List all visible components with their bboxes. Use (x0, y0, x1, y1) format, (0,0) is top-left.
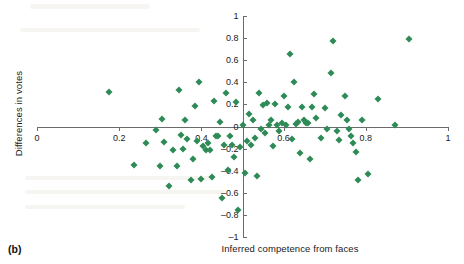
data-point (255, 90, 262, 97)
data-point (311, 90, 318, 97)
data-point (317, 134, 324, 141)
x-axis-tick-label: 1 (445, 133, 450, 143)
data-point (264, 99, 271, 106)
data-point (188, 176, 195, 183)
data-point (391, 122, 398, 129)
data-point (321, 105, 328, 112)
data-point (333, 127, 340, 134)
data-point (233, 98, 240, 105)
data-point (348, 133, 355, 140)
data-point (323, 126, 330, 133)
data-point (296, 149, 303, 156)
y-axis-tick (243, 60, 247, 61)
x-axis-tick (366, 127, 367, 131)
data-point (375, 95, 382, 102)
data-point (142, 140, 149, 147)
data-point (157, 162, 164, 169)
y-axis-tick-label: 1 (207, 11, 239, 21)
data-point (280, 93, 287, 100)
data-point (192, 102, 199, 109)
data-point (336, 136, 343, 143)
y-axis-tick-label: –0.8 (207, 210, 239, 220)
data-point (235, 206, 242, 213)
data-point (272, 101, 279, 108)
data-point (227, 133, 234, 140)
data-point (307, 155, 314, 162)
data-point (342, 92, 349, 99)
data-point (173, 162, 180, 169)
x-axis-tick (448, 127, 449, 131)
data-point (161, 138, 168, 145)
y-axis-tick (243, 237, 247, 238)
data-point (358, 116, 365, 123)
y-axis-tick-label: 0.4 (207, 77, 239, 87)
data-point (231, 153, 238, 160)
data-point (190, 155, 197, 162)
data-point (313, 114, 320, 121)
x-axis-tick-label: 0.8 (360, 133, 373, 143)
data-point (262, 130, 269, 137)
x-axis-tick (37, 127, 38, 131)
data-point (329, 37, 336, 44)
data-point (181, 117, 188, 124)
data-point (159, 115, 166, 122)
data-point (309, 103, 316, 110)
data-point (223, 90, 230, 97)
data-point (249, 116, 256, 123)
x-axis-tick-label: 0 (34, 133, 39, 143)
data-point (350, 140, 357, 147)
data-point (253, 173, 260, 180)
y-axis-tick (243, 38, 247, 39)
data-point (364, 170, 371, 177)
data-point (344, 117, 351, 124)
y-axis-tick (243, 215, 247, 216)
data-point (183, 135, 190, 142)
data-point (196, 79, 203, 86)
panel-caption: (b) (8, 243, 21, 255)
data-point (175, 86, 182, 93)
data-point (130, 161, 137, 168)
y-axis-tick-label: 0.6 (207, 55, 239, 65)
data-point (354, 176, 361, 183)
x-axis-tick (201, 127, 202, 131)
data-point (179, 146, 186, 153)
data-point (290, 79, 297, 86)
data-point (198, 175, 205, 182)
data-point (286, 50, 293, 57)
data-point (251, 135, 258, 142)
data-point (247, 141, 254, 148)
y-axis-tick (243, 193, 247, 194)
x-axis-tick-label: 0.2 (113, 133, 126, 143)
data-point (327, 69, 334, 76)
data-point (266, 122, 273, 129)
data-point (165, 183, 172, 190)
figure-panel-b: 00.20.40.60.81–1–0.8–0.6–0.4–0.200.20.40… (0, 0, 464, 264)
y-axis-tick-label: –1 (207, 232, 239, 242)
data-point (270, 142, 277, 149)
data-point (105, 88, 112, 95)
data-point (405, 36, 412, 43)
y-axis-tick (243, 16, 247, 17)
scatter-plot-area: 00.20.40.60.81–1–0.8–0.6–0.4–0.200.20.40… (0, 0, 464, 264)
x-axis-label: Inferred competence from faces (140, 243, 440, 254)
y-axis-tick-label: 0.8 (207, 33, 239, 43)
data-point (284, 103, 291, 110)
y-axis-tick (243, 82, 247, 83)
y-axis-tick (243, 104, 247, 105)
data-point (299, 104, 306, 111)
y-axis-tick (243, 149, 247, 150)
data-point (169, 147, 176, 154)
data-point (352, 148, 359, 155)
y-axis-label: Differences in votes (13, 34, 24, 194)
x-axis-tick (119, 127, 120, 131)
